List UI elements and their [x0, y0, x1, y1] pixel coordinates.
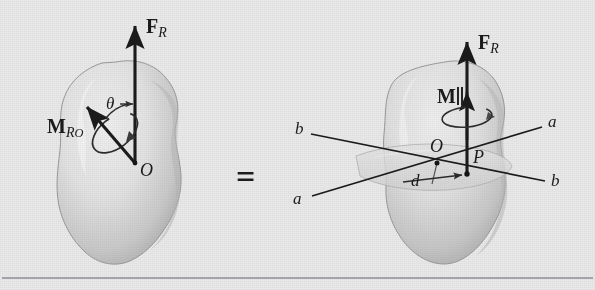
moment-double-bar-icon: [458, 87, 462, 105]
label-distance-d: d: [411, 172, 420, 189]
figure-canvas: FR MRO θ O = FR M O P d b a a b: [0, 0, 595, 290]
axis-label-a-left: a: [293, 190, 302, 207]
axis-label-a-right: a: [548, 113, 557, 130]
label-point-P: P: [473, 148, 484, 166]
axis-label-b-right: b: [551, 172, 560, 189]
axis-label-b-left: b: [295, 120, 304, 137]
moment-double-bar-layer: [0, 0, 595, 290]
label-point-O-right: O: [430, 137, 443, 155]
